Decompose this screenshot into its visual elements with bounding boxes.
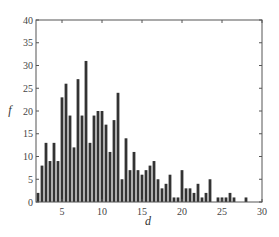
x-tick-label: 5 [60, 206, 65, 217]
histogram-bar [61, 97, 64, 202]
histogram-bar [37, 193, 40, 202]
histogram-bar [133, 152, 136, 202]
histogram-bar [225, 197, 228, 202]
histogram-bar [77, 79, 80, 202]
histogram-bar [53, 143, 56, 202]
histogram-bar [69, 116, 72, 202]
histogram-bar [229, 193, 232, 202]
histogram-bar [145, 170, 148, 202]
x-tick-label: 30 [257, 206, 267, 217]
histogram-bar [81, 116, 84, 202]
histogram-bar [85, 61, 88, 202]
histogram-bar [189, 188, 192, 202]
histogram-bar [121, 179, 124, 202]
histogram-bar [117, 93, 120, 202]
histogram-bar [149, 166, 152, 202]
histogram-bar [197, 184, 200, 202]
histogram-bar [57, 161, 60, 202]
histogram-bar [161, 188, 164, 202]
histogram-bar [185, 188, 188, 202]
bar-series [37, 61, 248, 202]
histogram-bar [89, 143, 92, 202]
histogram-bar [157, 179, 160, 202]
histogram-bar [97, 111, 100, 202]
histogram-bar [205, 193, 208, 202]
histogram-chart: 0510152025303540 51015202530 d f [0, 0, 279, 237]
histogram-bar [245, 197, 248, 202]
y-tick-label: 0 [28, 197, 33, 208]
y-tick-label: 20 [23, 106, 33, 117]
histogram-bar [193, 193, 196, 202]
histogram-bar [217, 197, 220, 202]
histogram-bar [49, 161, 52, 202]
histogram-bar [177, 197, 180, 202]
histogram-bar [45, 143, 48, 202]
y-tick-label: 25 [23, 83, 33, 94]
x-axis-label: d [145, 214, 152, 228]
x-tick-label: 10 [97, 206, 107, 217]
histogram-bar [65, 84, 68, 202]
y-axis-label: f [8, 103, 13, 117]
histogram-bar [201, 197, 204, 202]
histogram-bar [165, 184, 168, 202]
histogram-bar [41, 166, 44, 202]
y-tick-label: 15 [23, 128, 33, 139]
histogram-bar [129, 170, 132, 202]
y-tick-label: 35 [23, 37, 33, 48]
histogram-bar [137, 170, 140, 202]
histogram-bar [101, 111, 104, 202]
y-tick-label: 10 [23, 151, 33, 162]
histogram-bar [105, 125, 108, 202]
histogram-bar [125, 138, 128, 202]
histogram-bar [93, 116, 96, 202]
x-tick-label: 20 [177, 206, 187, 217]
histogram-bar [173, 197, 176, 202]
histogram-bar [233, 197, 236, 202]
histogram-bar [209, 179, 212, 202]
histogram-bar [141, 175, 144, 202]
histogram-bar [109, 152, 112, 202]
y-tick-label: 30 [23, 60, 33, 71]
histogram-bar [113, 120, 116, 202]
histogram-bar [169, 175, 172, 202]
histogram-bar [73, 147, 76, 202]
x-tick-label: 25 [217, 206, 227, 217]
histogram-bar [153, 161, 156, 202]
histogram-bar [181, 170, 184, 202]
y-tick-label: 5 [28, 174, 33, 185]
y-tick-label: 40 [23, 15, 33, 26]
